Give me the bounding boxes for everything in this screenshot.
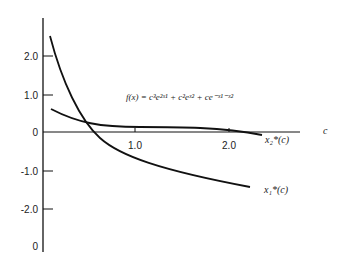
series-label-x2: x₂*(c) bbox=[264, 134, 290, 146]
chart: 2.0 1.0 0 -1.0 -2.0 0 1.0 2.0 c x₂*(c) x… bbox=[0, 0, 344, 266]
y-tick-label-m1: -1.0 bbox=[21, 166, 39, 177]
x-tick-label-2: 2.0 bbox=[222, 140, 236, 151]
y-tick-label-bottom: 0 bbox=[32, 241, 38, 252]
equation-annotation: f(x) = c³e²ˣ¹ + c²eˣ² + ce⁻ˣ¹⁻ˣ² bbox=[126, 92, 234, 102]
y-tick-label-1: 1.0 bbox=[24, 90, 38, 101]
y-tick-label-2: 2.0 bbox=[24, 51, 38, 62]
y-tick-label-0: 0 bbox=[32, 127, 38, 138]
curve-x1-star bbox=[50, 36, 250, 187]
curve-x2-star bbox=[51, 109, 262, 135]
x-tick-label-1: 1.0 bbox=[128, 140, 142, 151]
y-tick-label-m2: -2.0 bbox=[21, 204, 39, 215]
series-label-x1: x₁*(c) bbox=[263, 184, 289, 196]
equation-lhs: f(x) = bbox=[126, 92, 149, 102]
equation-rhs: c³e²ˣ¹ + c²eˣ² + ce⁻ˣ¹⁻ˣ² bbox=[149, 92, 233, 102]
x-axis-label: c bbox=[323, 125, 328, 136]
